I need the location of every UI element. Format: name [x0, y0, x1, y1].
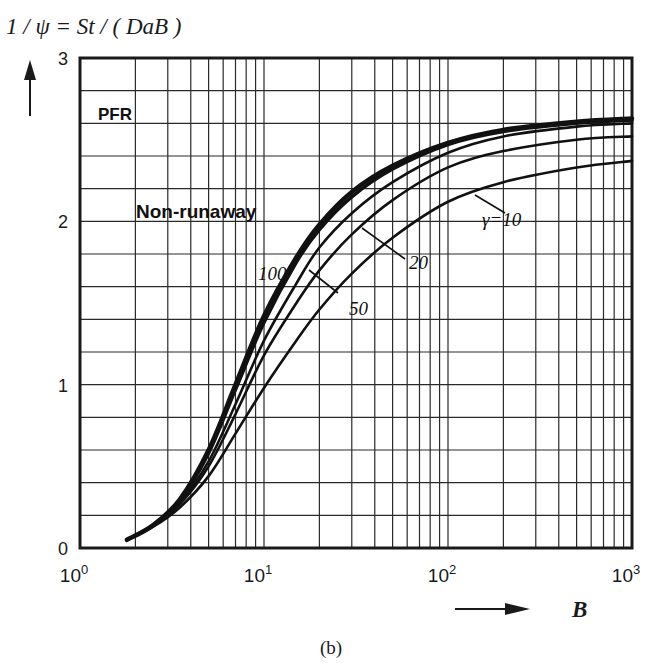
curve-annotation: 100: [258, 263, 287, 284]
y-tick-label: 2: [58, 212, 68, 232]
x-axis-arrow-icon: [505, 603, 530, 615]
x-tick-label: 102: [428, 562, 456, 586]
curve-annotation: 50: [349, 298, 369, 319]
figure-caption: (b): [0, 637, 662, 659]
y-tick-label: 0: [58, 539, 68, 559]
series-line: [127, 136, 632, 539]
curve-annotation: γ=10: [482, 209, 522, 230]
series-group: [127, 118, 632, 539]
y-tick-label: 3: [58, 49, 68, 69]
curve-annotation: PFR: [98, 105, 132, 124]
y-tick-label: 1: [58, 376, 68, 396]
x-tick-label: 101: [244, 562, 272, 586]
chart-canvas: 0123100101102103BPFRNon-runaway1005020γ=…: [0, 0, 662, 672]
y-axis-arrow-icon: [24, 60, 36, 80]
x-tick-label: 103: [612, 562, 640, 586]
x-tick-label: 100: [60, 562, 88, 586]
x-axis-label: B: [571, 597, 587, 622]
leader-line: [309, 270, 338, 293]
curve-annotation: 20: [409, 252, 429, 273]
curve-annotation: Non-runaway: [136, 201, 257, 222]
